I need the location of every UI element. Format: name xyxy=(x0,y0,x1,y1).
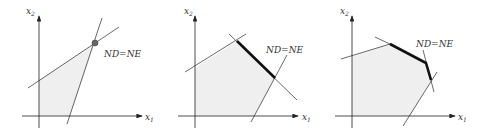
feasible-region xyxy=(352,44,431,116)
panel-1: x1 x2 ND=NE xyxy=(22,6,154,128)
panel-3: x1 x2 ND=NE xyxy=(335,6,467,128)
x1-label: x1 xyxy=(302,112,311,123)
x2-label: x2 xyxy=(26,6,35,17)
constraint-line-b xyxy=(375,37,392,45)
feasible-region xyxy=(39,43,95,116)
nd-ne-annotation: ND=NE xyxy=(265,45,304,55)
panel-2: x1 x2 ND=NE xyxy=(178,6,311,128)
figure: x1 x2 ND=NE x1 x2 ND=NE x1 x2 ND=NE xyxy=(0,0,486,137)
feasible-region xyxy=(195,41,275,116)
x1-label: x1 xyxy=(145,112,154,123)
nd-ne-annotation: ND=NE xyxy=(103,49,142,59)
nd-ne-annotation: ND=NE xyxy=(415,39,454,49)
efficient-point xyxy=(92,40,98,46)
x1-label: x1 xyxy=(458,112,467,123)
x2-label: x2 xyxy=(184,6,193,17)
x2-label: x2 xyxy=(340,6,349,17)
